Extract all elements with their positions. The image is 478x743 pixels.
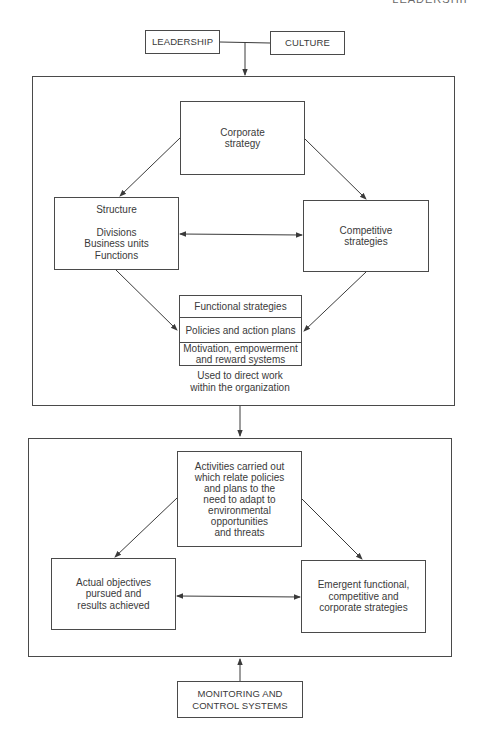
activities-line: environmental xyxy=(208,505,271,516)
monitoring-line: MONITORING AND xyxy=(197,688,282,700)
activities-line: which relate policies xyxy=(195,472,285,483)
activities-line: and threats xyxy=(214,527,264,538)
activities-line: and plans to the xyxy=(204,483,275,494)
cell-text: Motivation, empowerment xyxy=(183,343,298,354)
emergent-strategies-line: Emergent functional, xyxy=(318,579,410,591)
activities-line: need to adapt to xyxy=(203,494,275,505)
caption-line: Used to direct work xyxy=(170,370,310,382)
competitive-strategies-line: strategies xyxy=(344,236,387,248)
actual-objectives-line: pursued and xyxy=(86,588,142,600)
monitoring-line: CONTROL SYSTEMS xyxy=(192,700,288,712)
cell-text: and reward systems xyxy=(196,354,285,365)
leadership-culture-connector xyxy=(220,42,270,43)
competitive-strategies-box: Competitive strategies xyxy=(303,200,429,272)
actual-objectives-box: Actual objectives pursued and results ac… xyxy=(51,558,176,630)
structure-item: Business units xyxy=(84,238,148,250)
functional-strategies-cell: Functional strategies xyxy=(180,296,301,317)
corporate-strategy-box: Corporate strategy xyxy=(180,101,305,175)
corporate-strategy-line: Corporate xyxy=(220,127,264,139)
structure-item: Divisions xyxy=(96,227,136,239)
competitive-strategies-line: Competitive xyxy=(340,225,393,237)
culture-box: CULTURE xyxy=(270,31,345,55)
formulation-caption: Used to direct work within the organizat… xyxy=(170,370,310,394)
functional-strategies-stack: Functional strategies Policies and actio… xyxy=(179,295,302,366)
actual-objectives-line: results achieved xyxy=(77,600,149,612)
emergent-strategies-line: competitive and xyxy=(328,591,398,603)
policies-action-plans-cell: Policies and action plans xyxy=(180,317,301,342)
motivation-reward-cell: Motivation, empowerment and reward syste… xyxy=(180,342,301,365)
leadership-box: LEADERSHIP xyxy=(145,30,220,54)
activities-box: Activities carried out which relate poli… xyxy=(177,451,302,547)
cell-text: Functional strategies xyxy=(194,301,286,312)
structure-box: Structure Divisions Business units Funct… xyxy=(54,197,179,270)
cell-text: Policies and action plans xyxy=(185,325,295,336)
emergent-strategies-line: corporate strategies xyxy=(319,602,407,614)
caption-line: within the organization xyxy=(170,382,310,394)
actual-objectives-line: Actual objectives xyxy=(76,577,151,589)
corporate-strategy-line: strategy xyxy=(225,138,261,150)
structure-title: Structure xyxy=(96,204,137,216)
emergent-strategies-box: Emergent functional, competitive and cor… xyxy=(301,560,426,633)
activities-line: opportunities xyxy=(211,516,268,527)
page-header: LEADERSHIP xyxy=(392,0,472,5)
activities-line: Activities carried out xyxy=(195,461,284,472)
structure-item: Functions xyxy=(95,250,138,262)
monitoring-control-box: MONITORING AND CONTROL SYSTEMS xyxy=(177,681,303,718)
leadership-label: LEADERSHIP xyxy=(152,36,213,48)
culture-label: CULTURE xyxy=(285,37,330,49)
